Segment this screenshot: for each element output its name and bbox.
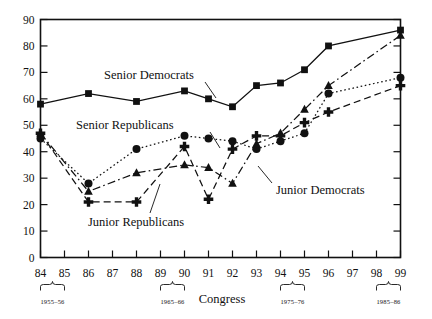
leader-junior-democrats: [258, 166, 272, 183]
marker-senior-democrats: [181, 88, 188, 95]
series-markers: [36, 27, 406, 207]
series-line-junior-democrats: [41, 35, 401, 191]
bracket-2: [161, 282, 185, 291]
marker-senior-democrats: [133, 98, 140, 105]
x-tick-label: 84: [35, 267, 47, 279]
x-axis-ticks: [41, 251, 401, 258]
marker-senior-republicans: [325, 90, 333, 98]
marker-senior-republicans: [229, 137, 237, 145]
marker-junior-republicans: [324, 107, 334, 117]
y-axis-labels: 0102030405060708090: [23, 14, 35, 264]
bracket-label-3: 1975–76: [280, 298, 305, 305]
annotation-senior-republicans: Senior Republicans: [76, 118, 174, 132]
marker-senior-democrats: [301, 66, 308, 73]
marker-junior-republicans: [396, 81, 406, 91]
x-axis-title: Congress: [199, 292, 246, 306]
annotation-junior-republicans: Junior Republicans: [88, 215, 184, 229]
x-tick-label: 91: [203, 267, 215, 279]
marker-senior-democrats: [85, 90, 92, 97]
x-tick-label: 89: [155, 267, 167, 279]
marker-senior-democrats: [37, 101, 44, 108]
y-tick-label: 30: [23, 172, 35, 184]
marker-senior-democrats: [277, 80, 284, 87]
marker-senior-republicans: [133, 145, 141, 153]
marker-junior-democrats: [228, 179, 237, 187]
marker-junior-republicans: [84, 197, 94, 207]
bracket-label-4: 1985–86: [376, 298, 401, 305]
leader-junior-republicans: [150, 184, 160, 213]
marker-senior-democrats: [205, 95, 212, 102]
marker-senior-republicans: [85, 179, 93, 187]
bracket-1: [41, 282, 65, 291]
series-lines: [41, 30, 401, 202]
y-tick-label: 10: [23, 225, 35, 237]
y-tick-label: 60: [23, 93, 35, 105]
y-tick-label: 0: [29, 252, 35, 264]
x-tick-label: 99: [395, 267, 407, 279]
y-tick-label: 90: [23, 14, 35, 26]
x-tick-label: 86: [83, 267, 95, 279]
marker-senior-democrats: [325, 43, 332, 50]
marker-junior-democrats: [324, 81, 333, 89]
marker-junior-republicans: [300, 118, 310, 128]
line-chart-canvas: 0102030405060708090 84858687888990919293…: [0, 0, 432, 319]
bracket-4: [377, 282, 401, 291]
annotation-senior-democrats: Senior Democrats: [104, 68, 194, 82]
chart-figure: 0102030405060708090 84858687888990919293…: [0, 0, 432, 319]
annotation-junior-democrats: Junior Democrats: [276, 183, 365, 197]
marker-junior-republicans: [228, 144, 238, 154]
y-tick-label: 80: [23, 40, 35, 52]
y-tick-label: 40: [23, 146, 35, 158]
marker-junior-republicans: [252, 131, 262, 141]
bracket-label-2: 1965–66: [160, 298, 185, 305]
marker-senior-democrats: [253, 82, 260, 89]
bracket-label-1: 1955–56: [40, 298, 65, 305]
marker-junior-republicans: [204, 195, 214, 205]
bracket-3: [281, 282, 305, 291]
marker-junior-democrats: [180, 160, 189, 168]
x-tick-label: 95: [299, 267, 311, 279]
x-tick-label: 96: [323, 267, 335, 279]
y-tick-label: 20: [23, 199, 35, 211]
x-tick-label: 90: [179, 267, 191, 279]
marker-senior-democrats: [229, 103, 236, 110]
y-tick-label: 50: [23, 119, 35, 131]
x-tick-label: 92: [227, 267, 239, 279]
y-tick-label: 70: [23, 66, 35, 78]
marker-senior-republicans: [205, 135, 213, 143]
marker-senior-republicans: [181, 132, 189, 140]
marker-senior-republicans: [301, 129, 309, 137]
series-line-senior-democrats: [41, 30, 401, 107]
x-tick-label: 87: [107, 267, 119, 279]
marker-senior-republicans: [397, 74, 405, 82]
x-tick-label: 85: [59, 267, 71, 279]
x-tick-label: 88: [131, 267, 143, 279]
x-tick-label: 98: [371, 267, 383, 279]
x-axis-labels: 84858687888990919293949596979899: [35, 267, 407, 279]
x-tick-label: 94: [275, 267, 287, 279]
x-tick-label: 97: [347, 267, 359, 279]
x-tick-label: 93: [251, 267, 263, 279]
